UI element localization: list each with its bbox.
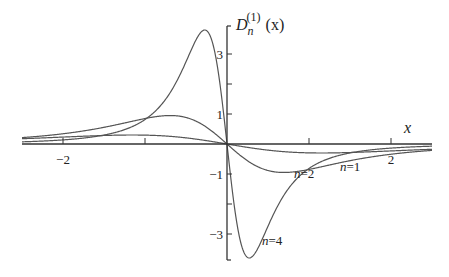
curve-label-n1: n=1 xyxy=(340,159,360,174)
y-axis-label-sup: (1) xyxy=(247,10,261,24)
x-tick-label--2: −2 xyxy=(56,152,70,167)
y-tick-label--3: −3 xyxy=(209,227,223,242)
y-axis-label: Dn(1)(x) xyxy=(235,10,284,38)
curve-label-n4: n=4 xyxy=(262,233,283,248)
curve-label-n2: n=2 xyxy=(294,166,314,181)
y-tick-label-3: 3 xyxy=(217,47,224,62)
x-axis-label: x xyxy=(403,119,411,136)
y-tick-label--1: −1 xyxy=(209,167,223,182)
y-axis-label-sub: n xyxy=(248,24,254,38)
chart: −22 31−1−3 x Dn(1)(x) n=1 n=2 n=4 xyxy=(0,0,449,277)
y-tick-label-1: 1 xyxy=(217,107,224,122)
x-tick-label-2: 2 xyxy=(388,152,395,167)
y-axis-label-arg: (x) xyxy=(266,16,285,34)
